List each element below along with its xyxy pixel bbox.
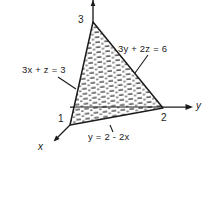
- y-axis-arrowhead: [186, 104, 194, 110]
- figure-container: 3y + 2z = 6 3x + z = 3 y = 2 - 2x y x 3 …: [0, 0, 211, 209]
- axis-label-x: x: [38, 141, 43, 152]
- tick-label-z-intercept: 3: [78, 14, 84, 25]
- leader-plane-yz: [135, 55, 148, 73]
- leader-plane-xz: [58, 77, 76, 89]
- tick-label-y-intercept: 2: [161, 112, 167, 123]
- plane-region-diagram: [0, 0, 211, 209]
- equation-label-plane-xz: 3x + z = 3: [22, 64, 66, 75]
- axis-label-y: y: [196, 100, 201, 111]
- equation-label-plane-yz: 3y + 2z = 6: [118, 43, 167, 54]
- tick-label-x-intercept: 1: [58, 113, 64, 124]
- triangle-fill: [70, 22, 163, 125]
- triangle-region: [70, 22, 163, 125]
- equation-label-line-xy: y = 2 - 2x: [88, 131, 129, 142]
- z-axis-arrowhead: [91, 0, 96, 6]
